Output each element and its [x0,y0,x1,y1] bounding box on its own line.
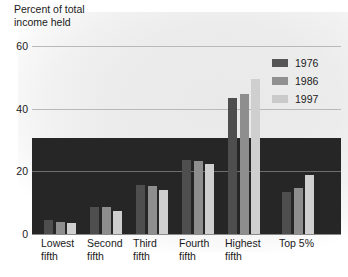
axis-baseline [32,234,341,235]
legend-item-1997: 1997 [272,92,318,105]
bar-group [90,0,122,235]
y-tick-label-0: 0 [0,228,28,240]
x-tick-label: Fourth fifth [179,237,209,262]
legend-item-1976: 1976 [272,56,318,69]
legend-swatch-icon-1976 [272,59,288,67]
legend-swatch-icon-1997 [272,95,288,103]
bar-group [228,0,260,235]
bar-group [182,0,214,235]
y-tick-label-20: 20 [0,165,28,177]
bar-1976 [228,98,237,234]
legend-label-1986: 1986 [295,75,318,87]
bar-1976 [136,185,145,234]
bar-1997 [113,211,122,235]
bar-1976 [90,207,99,234]
bar-1997 [251,79,260,234]
bar-series-container [32,0,341,235]
legend-item-1986: 1986 [272,74,318,87]
bar-1986 [294,188,303,234]
bar-group [282,0,314,235]
x-axis-tick-labels: Lowest fifthSecond fifthThird fifthFourt… [32,237,341,275]
x-tick-label: Top 5% [279,237,314,250]
bar-group [136,0,168,235]
bar-1986 [56,222,65,234]
bar-1986 [102,207,111,234]
legend-swatch-icon-1986 [272,77,288,85]
bar-1976 [282,192,291,234]
chart-axis-title: Percent of total income held [14,3,85,28]
bar-1986 [240,94,249,234]
x-tick-label: Third fifth [133,237,157,262]
y-tick-label-40: 40 [0,103,28,115]
x-tick-label: Highest fifth [225,237,261,262]
chart-legend: 1976 1986 1997 [272,56,318,110]
legend-label-1976: 1976 [295,57,318,69]
legend-label-1997: 1997 [295,93,318,105]
x-tick-label: Second fifth [87,237,123,262]
bar-1997 [67,223,76,234]
y-tick-label-60: 60 [0,40,28,52]
bar-1976 [182,160,191,234]
bar-1997 [205,164,214,234]
bar-1997 [159,190,168,234]
x-tick-label: Lowest fifth [41,237,74,262]
bar-1986 [194,161,203,234]
bar-1976 [44,220,53,234]
bar-1986 [148,186,157,234]
bar-1997 [305,175,314,234]
bar-group [44,0,76,235]
